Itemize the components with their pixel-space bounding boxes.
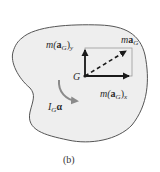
label-G: G bbox=[73, 71, 80, 82]
figure-caption: (b) bbox=[63, 154, 75, 166]
free-body-diagram: m(aG)y maG G m(aG)x IGα (b) bbox=[0, 0, 160, 172]
center-of-mass-point bbox=[83, 74, 86, 77]
